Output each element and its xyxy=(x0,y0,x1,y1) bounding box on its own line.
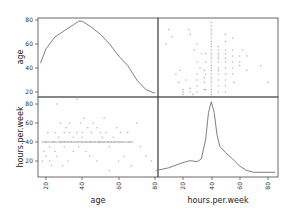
data-point xyxy=(118,160,120,162)
data-point xyxy=(218,79,220,81)
data-point xyxy=(211,53,213,55)
data-point xyxy=(91,132,93,134)
scatter-hours-vs-age xyxy=(165,22,269,96)
x-tick-label: 40 xyxy=(78,182,85,190)
data-point xyxy=(43,151,45,153)
data-point xyxy=(232,73,234,75)
data-point xyxy=(175,73,177,75)
data-point xyxy=(107,141,109,143)
data-point xyxy=(74,141,76,143)
data-point xyxy=(82,141,84,143)
data-point xyxy=(145,156,147,158)
scatter-age-vs-hours xyxy=(42,99,153,172)
data-point xyxy=(225,41,227,43)
data-point xyxy=(122,141,124,143)
data-point xyxy=(103,118,105,120)
data-point xyxy=(72,141,74,143)
x-axis-age: 20 40 60 80 age xyxy=(42,177,158,205)
data-point xyxy=(127,132,129,134)
data-point xyxy=(196,85,198,87)
data-point xyxy=(58,141,60,143)
data-point xyxy=(225,34,227,36)
data-point xyxy=(218,49,220,51)
data-point xyxy=(90,141,92,143)
x-tick-label: 60 xyxy=(236,182,243,190)
data-point xyxy=(218,55,220,57)
data-point xyxy=(81,141,83,143)
data-point xyxy=(239,55,241,57)
data-point xyxy=(211,41,213,43)
data-point xyxy=(91,141,93,143)
data-point xyxy=(196,91,198,93)
data-point xyxy=(94,141,96,143)
data-point xyxy=(232,67,234,69)
data-point xyxy=(76,132,78,134)
data-point xyxy=(211,55,213,57)
data-point xyxy=(47,132,49,134)
data-point xyxy=(211,25,213,27)
data-point xyxy=(218,70,220,72)
data-point xyxy=(232,49,234,51)
data-point xyxy=(211,58,213,60)
data-point xyxy=(82,132,84,134)
data-point xyxy=(73,137,75,139)
data-point xyxy=(205,61,207,63)
data-point xyxy=(45,141,47,143)
data-point xyxy=(92,122,94,124)
data-point xyxy=(123,141,125,143)
data-point xyxy=(124,141,126,143)
data-point xyxy=(211,73,213,75)
data-point xyxy=(53,141,55,143)
data-point xyxy=(267,82,269,84)
data-point xyxy=(116,127,118,129)
data-point xyxy=(92,141,94,143)
data-point xyxy=(102,137,104,139)
data-point xyxy=(179,70,181,72)
data-point xyxy=(62,165,64,167)
data-point xyxy=(225,58,227,60)
data-point xyxy=(211,43,213,45)
x-tick-label: 60 xyxy=(115,182,122,190)
data-point xyxy=(131,165,133,167)
data-point xyxy=(178,82,180,84)
y-axis-bottom: 80 60 40 20 hours.per.week xyxy=(16,100,38,168)
data-point xyxy=(151,160,153,162)
data-point xyxy=(189,88,191,90)
data-point xyxy=(49,141,51,143)
data-point xyxy=(119,141,121,143)
data-point xyxy=(218,85,220,87)
data-point xyxy=(211,70,213,72)
data-point xyxy=(192,94,194,96)
kde-hours-curve xyxy=(156,102,275,173)
data-point xyxy=(100,132,102,134)
y-tick-label: 60 xyxy=(25,40,33,47)
data-point xyxy=(42,160,44,162)
data-point xyxy=(97,141,99,143)
data-point xyxy=(85,141,87,143)
data-point xyxy=(66,141,68,143)
data-point xyxy=(225,49,227,51)
data-point xyxy=(218,91,220,93)
data-point xyxy=(171,36,173,38)
data-point xyxy=(73,151,75,153)
data-point xyxy=(168,29,170,31)
y-tick-label: 60 xyxy=(25,119,33,126)
data-point xyxy=(246,55,248,57)
data-point xyxy=(113,141,115,143)
y-tick-label: 80 xyxy=(25,16,33,23)
data-point xyxy=(49,146,51,148)
data-point xyxy=(211,61,213,63)
data-point xyxy=(211,77,213,79)
data-point xyxy=(232,55,234,57)
panel-frames xyxy=(38,18,278,177)
data-point xyxy=(196,73,198,75)
data-point xyxy=(225,53,227,55)
data-point xyxy=(95,141,97,143)
data-point xyxy=(225,91,227,93)
data-point xyxy=(205,73,207,75)
data-point xyxy=(120,132,122,134)
data-point xyxy=(225,67,227,69)
y-tick-label: 80 xyxy=(25,100,33,107)
data-point xyxy=(78,146,80,148)
panel-top-right-frame xyxy=(158,18,278,97)
